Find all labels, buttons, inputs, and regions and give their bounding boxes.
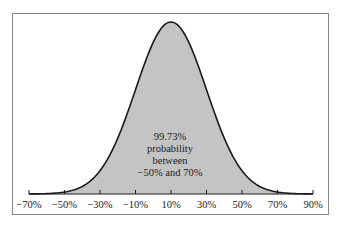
normal-distribution-chart: −70%−50%−30%−10%10%30%50%70%90% [0, 0, 341, 227]
x-tick-label: −50% [52, 199, 77, 210]
annotation-line-2: probability [120, 143, 220, 155]
x-tick-label: −70% [16, 199, 41, 210]
x-tick-label: 10% [161, 199, 181, 210]
annotation-line-3: between [120, 155, 220, 167]
x-tick-label: −30% [87, 199, 112, 210]
x-tick-label: 90% [303, 199, 323, 210]
annotation-line-1: 99.73% [120, 131, 220, 143]
x-tick-label: 50% [232, 199, 252, 210]
x-tick-label: 30% [197, 199, 217, 210]
x-tick-label: −10% [123, 199, 148, 210]
annotation-line-4: −50% and 70% [120, 167, 220, 179]
x-tick-label: 70% [268, 199, 288, 210]
probability-annotation: 99.73% probability between −50% and 70% [120, 131, 220, 179]
